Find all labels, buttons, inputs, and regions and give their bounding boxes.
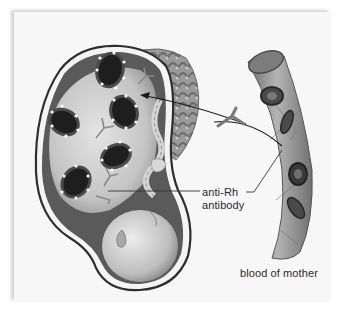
label-line-2: antibody [202,199,244,212]
maternal-blood-vessel [246,46,313,259]
label-line-1: anti-Rh [202,186,244,199]
fetus-head [102,210,178,282]
leader-line-maternal-antibody [246,150,282,192]
anti-rh-antibody-label: anti-Rh antibody [202,186,244,212]
blood-of-mother-label: blood of mother [240,267,318,280]
